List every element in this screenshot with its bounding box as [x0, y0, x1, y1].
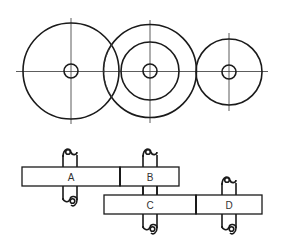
side-view: A B C D — [22, 149, 262, 234]
gear-c-label: C — [146, 200, 153, 211]
gear-c: C — [104, 195, 196, 214]
end-view — [16, 18, 268, 124]
gear-b: B — [120, 167, 179, 186]
gear-train-diagram: A B C D — [0, 0, 283, 243]
gear-d-label: D — [225, 200, 232, 211]
gear-b-label: B — [147, 172, 154, 183]
gear-1-end-view — [23, 18, 119, 124]
gear-a-label: A — [68, 172, 75, 183]
shaft-2 — [143, 149, 157, 234]
gear-3-end-view — [196, 33, 262, 111]
gear-a: A — [22, 167, 120, 186]
gear-d: D — [196, 195, 262, 214]
